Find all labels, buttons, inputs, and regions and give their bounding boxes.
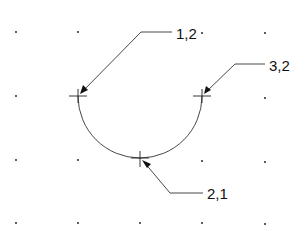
arc-diagram: [0, 0, 305, 231]
arrowheads: [80, 85, 211, 168]
point-markers: [69, 89, 211, 167]
point-label-3-2: 3,2: [269, 58, 290, 73]
arc: [78, 96, 202, 158]
point-label-1-2: 1,2: [176, 26, 197, 41]
grid-dots: [15, 31, 266, 225]
point-label-2-1: 2,1: [207, 186, 228, 201]
leader-lines: [82, 32, 265, 193]
diagram-canvas: 1,2 3,2 2,1: [0, 0, 305, 231]
